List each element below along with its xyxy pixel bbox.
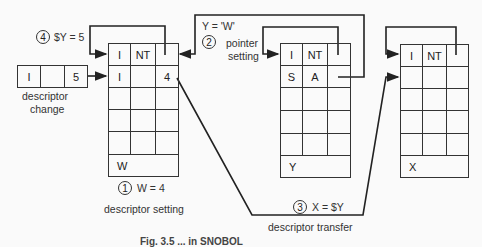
step-2-expr: Y = 'W': [202, 20, 235, 32]
y-cell: [302, 87, 328, 111]
y-cell: [302, 133, 328, 156]
change-cell: [40, 65, 65, 88]
step-3-expr: X = $Y: [312, 201, 344, 213]
x-cell: [400, 66, 423, 89]
w-cell: I: [108, 43, 131, 66]
change-cell: 5: [64, 65, 88, 88]
w-cell: NT: [130, 43, 156, 66]
step-4-marker: 4: [36, 30, 50, 44]
step-3-desc: descriptor transfer: [268, 221, 353, 233]
y-cell: A: [302, 65, 328, 88]
y-cell: [280, 133, 303, 156]
y-cell: [280, 110, 303, 134]
change-label: change: [30, 103, 64, 115]
x-cell: [422, 110, 447, 134]
change-cell: I: [17, 65, 41, 88]
change-label: descriptor: [22, 90, 68, 102]
step-2-desc: setting: [228, 50, 259, 62]
y-cell: S: [280, 65, 303, 88]
x-cell: [422, 66, 447, 89]
x-cell: [400, 88, 423, 111]
x-cell: [446, 110, 469, 134]
x-cell: [400, 133, 423, 156]
w-cell: [130, 131, 156, 155]
y-name-cell: Y: [280, 155, 351, 178]
y-cell: NT: [302, 43, 328, 66]
x-cell: NT: [422, 44, 447, 67]
x-cell: [422, 88, 447, 111]
step-1-desc: descriptor setting: [104, 203, 184, 215]
step-3-marker: 3: [293, 200, 307, 214]
x-cell: [422, 133, 447, 156]
step-2-marker: 2: [202, 35, 216, 49]
figure-caption: Fig. 3.5 ... in SNOBOL: [140, 236, 243, 247]
y-cell: [327, 87, 351, 111]
w-cell: [155, 87, 179, 110]
x-cell: [446, 44, 469, 67]
y-cell: I: [280, 43, 303, 66]
w-cell: [155, 109, 179, 132]
y-cell: [327, 65, 351, 88]
w-cell: [108, 87, 131, 110]
w-cell: [155, 131, 179, 155]
x-cell: [400, 110, 423, 134]
x-cell: [446, 88, 469, 111]
w-cell: [108, 131, 131, 155]
y-cell: [327, 110, 351, 134]
y-cell: [302, 110, 328, 134]
step-2-desc: pointer: [226, 37, 258, 49]
w-cell: [108, 109, 131, 132]
x-name-cell: X: [400, 155, 469, 178]
x-cell: [446, 133, 469, 156]
w-cell: 4: [155, 65, 179, 88]
w-cell: [155, 43, 179, 66]
y-cell: [327, 43, 351, 66]
y-cell: [327, 133, 351, 156]
w-cell: [130, 65, 156, 88]
w-cell: [130, 109, 156, 132]
step-4-expr: $Y = 5: [54, 31, 84, 43]
w-cell: I: [108, 65, 131, 88]
step-1-marker: 1: [118, 181, 132, 195]
x-cell: [446, 66, 469, 89]
x-cell: I: [400, 44, 423, 67]
y-cell: [280, 87, 303, 111]
step-1-expr: W = 4: [137, 182, 165, 194]
w-cell: [130, 87, 156, 110]
w-name-cell: W: [108, 154, 179, 177]
